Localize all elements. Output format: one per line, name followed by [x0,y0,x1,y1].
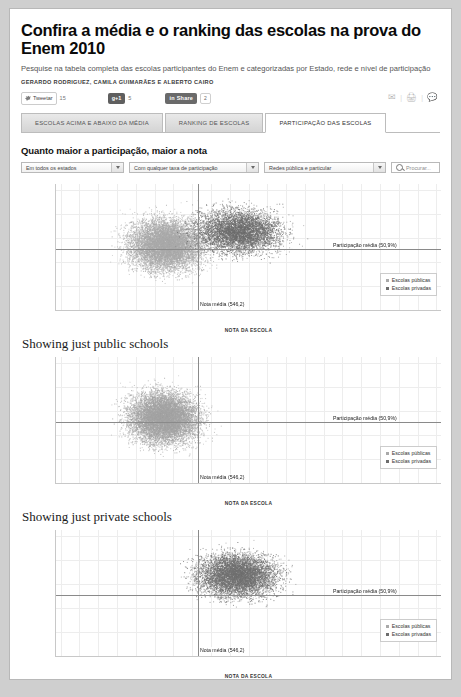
legend-item: Escolas privadas [386,285,431,293]
tab-escolas-acima-abaixo[interactable]: ESCOLAS ACIMA E ABAIXO DA MÉDIA [21,113,163,132]
tab-participacao-escolas[interactable]: PARTICIPAÇÃO DAS ESCOLAS [265,113,385,133]
gridline-h [56,483,441,484]
mean-score-line [198,357,199,483]
twitter-label: Tweetar [33,95,53,101]
gplus-share-button[interactable]: g+1 [108,93,126,104]
annotation-mean-participation: Participação média (50,9%) [333,415,397,421]
section-heading: Quanto maior a participação, maior a not… [21,145,440,156]
chart-title-1: Showing just public schools [22,336,440,352]
gridline-h [56,656,441,657]
search-placeholder: Procurar... [406,165,431,171]
chevron-down-icon [246,163,258,172]
chart-legend: Escolas públicasEscolas privadas [380,273,437,296]
annotation-mean-score: Nota média (546,2) [200,301,244,307]
legend-item: Escolas privadas [386,631,431,639]
annotation-mean-score: Nota média (546,2) [200,474,244,480]
annotation-mean-score: Nota média (546,2) [200,647,244,653]
search-input[interactable]: Procurar... [391,162,440,173]
x-axis-label: NOTA DA ESCOLA [55,674,442,679]
divider: | [400,94,402,101]
linkedin-label: Share [177,95,193,101]
envelope-icon[interactable]: ✉ [388,92,396,102]
utility-icons: ✉ | 🖨 | 💬 [388,92,438,102]
legend-label: Escolas públicas [392,277,431,283]
scatter-chart-2: TAXA DE PARTICIPAÇÃO NA PROVA, em %NOTA … [21,526,442,678]
legend-label: Escolas privadas [392,458,431,464]
page-subtitle: Pesquise na tabela completa das escolas … [21,64,440,74]
legend-swatch-icon [386,287,389,290]
tab-ranking-escolas[interactable]: RANKING DE ESCOLAS [165,113,264,132]
filter-controls: Em todos os estados Com qualquer taxa de… [21,162,440,173]
comment-icon[interactable]: 💬 [427,92,438,102]
plot-area: 0204060801004004204404604805005205405605… [55,184,441,311]
mean-participation-line [56,422,441,423]
plot-area: 0204060801004004204404604805005205405605… [55,530,441,657]
legend-item: Escolas públicas [386,277,431,285]
charts-container: TAXA DE PARTICIPAÇÃO NA PROVA, em %NOTA … [21,180,440,678]
plot-area: 0204060801004004204404604805005205405605… [55,357,441,484]
legend-swatch-icon [386,452,389,455]
legend-label: Escolas privadas [392,631,431,637]
legend-item: Escolas públicas [386,623,431,631]
legend-item: Escolas públicas [386,450,431,458]
social-share-bar: Tweetar 15 g+1 5 in Share 2 ✉ | 🖨 | 💬 [21,92,440,104]
twitter-share-button[interactable]: Tweetar [21,92,57,105]
chart-title-2: Showing just private schools [22,509,440,525]
chevron-down-icon [111,163,123,172]
article-card: Confira a média e o ranking das escolas … [9,8,452,680]
x-axis-label: NOTA DA ESCOLA [55,328,442,333]
byline: GERARDO RODRIGUEZ, CAMILA GUIMARÃES E AL… [21,79,440,85]
mean-score-line [198,530,199,656]
printer-icon[interactable]: 🖨 [406,92,417,102]
linkedin-icon: in [169,95,174,101]
mean-score-line [198,184,199,310]
page-root: Confira a média e o ranking das escolas … [0,0,461,697]
legend-swatch-icon [386,625,389,628]
annotation-mean-participation: Participação média (50,9%) [333,588,397,594]
gridline-h [56,310,441,311]
chart-legend: Escolas públicasEscolas privadas [380,446,437,469]
gplus-count: 5 [128,95,131,101]
legend-label: Escolas públicas [392,450,431,456]
network-filter-select[interactable]: Redes pública e particular [264,162,386,173]
state-filter-select[interactable]: Em todos os estados [21,162,124,173]
legend-swatch-icon [386,460,389,463]
scatter-chart-1: TAXA DE PARTICIPAÇÃO NA PROVA, em %NOTA … [21,353,442,505]
legend-swatch-icon [386,633,389,636]
tab-bar: ESCOLAS ACIMA E ABAIXO DA MÉDIA RANKING … [21,113,440,133]
twitter-count: 15 [60,95,66,101]
legend-label: Escolas públicas [392,623,431,629]
divider: | [421,94,423,101]
page-title: Confira a média e o ranking das escolas … [21,21,440,57]
rate-filter-value: Com qualquer taxa de participação [134,165,218,171]
twitter-icon [25,95,31,101]
network-filter-value: Redes pública e particular [269,165,331,171]
mean-participation-line [56,595,441,596]
chart-legend: Escolas públicasEscolas privadas [380,619,437,642]
rate-filter-select[interactable]: Com qualquer taxa de participação [129,162,259,173]
linkedin-share-button[interactable]: in Share [165,93,197,104]
mean-participation-line [56,249,441,250]
search-icon [396,164,403,171]
legend-label: Escolas privadas [392,285,431,291]
state-filter-value: Em todos os estados [26,165,76,171]
x-axis-label: NOTA DA ESCOLA [55,501,442,506]
legend-item: Escolas privadas [386,458,431,466]
legend-swatch-icon [386,279,389,282]
linkedin-count: 2 [200,93,211,104]
annotation-mean-participation: Participação média (50,9%) [333,242,397,248]
scatter-chart-0: TAXA DE PARTICIPAÇÃO NA PROVA, em %NOTA … [21,180,442,332]
chevron-down-icon [373,163,385,172]
